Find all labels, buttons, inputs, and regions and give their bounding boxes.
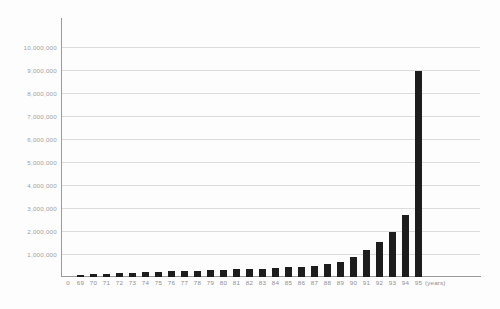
bar-slot bbox=[139, 24, 152, 277]
x-axis-tick-label: 78 bbox=[194, 279, 201, 286]
x-axis-tick-label: 74 bbox=[142, 279, 149, 286]
bar bbox=[233, 269, 239, 277]
y-axis-tick-label: 5,000,000 bbox=[27, 159, 57, 166]
x-axis-tick-label: 94 bbox=[402, 279, 409, 286]
x-axis-tick-label: 93 bbox=[389, 279, 396, 286]
bar-slot bbox=[347, 24, 360, 277]
bar bbox=[389, 232, 395, 277]
bar-slot bbox=[243, 24, 256, 277]
x-axis-tick-label: 88 bbox=[324, 279, 331, 286]
bar-slot bbox=[100, 24, 113, 277]
bar-slot bbox=[321, 24, 334, 277]
x-axis-tick-label: 75 bbox=[155, 279, 162, 286]
y-axis-tick-label: 9,000,000 bbox=[27, 67, 57, 74]
y-axis-tick-label: 2,000,000 bbox=[27, 228, 57, 235]
bar bbox=[415, 71, 421, 277]
x-axis-labels: 0697071727374757677787980818283848586878… bbox=[62, 279, 492, 295]
bar-slot bbox=[217, 24, 230, 277]
bar-slot bbox=[282, 24, 295, 277]
y-axis-labels: 1,000,0002,000,0003,000,0004,000,0005,00… bbox=[0, 0, 57, 309]
x-axis-tick-label: 80 bbox=[220, 279, 227, 286]
bar bbox=[129, 273, 135, 277]
bar bbox=[207, 270, 213, 277]
bar bbox=[103, 274, 109, 277]
bar bbox=[116, 273, 122, 277]
x-axis-tick-label: 83 bbox=[259, 279, 266, 286]
x-axis-tick-label: 72 bbox=[116, 279, 123, 286]
bar bbox=[272, 268, 278, 277]
bar bbox=[402, 215, 408, 277]
bar bbox=[194, 271, 200, 277]
x-axis-tick-label: 92 bbox=[376, 279, 383, 286]
bar bbox=[168, 271, 174, 277]
x-axis-tick-label: 84 bbox=[272, 279, 279, 286]
bar-slot bbox=[295, 24, 308, 277]
y-axis-tick-label: 1,000,000 bbox=[27, 251, 57, 258]
bar-slot bbox=[191, 24, 204, 277]
x-axis-tick-label: 71 bbox=[103, 279, 110, 286]
bar-chart: 1,000,0002,000,0003,000,0004,000,0005,00… bbox=[0, 0, 500, 309]
y-axis-tick-label: 4,000,000 bbox=[27, 182, 57, 189]
bar bbox=[181, 271, 187, 277]
bar-slot bbox=[256, 24, 269, 277]
x-axis-tick-label: 90 bbox=[350, 279, 357, 286]
bar-series bbox=[62, 24, 482, 277]
y-axis-tick-label: 3,000,000 bbox=[27, 205, 57, 212]
x-axis-tick-label: 89 bbox=[337, 279, 344, 286]
bar-slot bbox=[399, 24, 412, 277]
bar-slot bbox=[165, 24, 178, 277]
x-axis-tick-label: 87 bbox=[311, 279, 318, 286]
bar bbox=[285, 267, 291, 277]
x-axis-tick-label: 73 bbox=[129, 279, 136, 286]
x-axis-tick-label: 86 bbox=[298, 279, 305, 286]
bar-slot bbox=[334, 24, 347, 277]
bar-slot bbox=[74, 24, 87, 277]
bar bbox=[77, 275, 83, 277]
bar-slot bbox=[308, 24, 321, 277]
bar-slot bbox=[230, 24, 243, 277]
x-axis-tick-label: 85 bbox=[285, 279, 292, 286]
bar-slot bbox=[373, 24, 386, 277]
x-axis-origin-label: 0 bbox=[66, 279, 70, 286]
x-axis-tick-label: 91 bbox=[363, 279, 370, 286]
bar bbox=[363, 250, 369, 277]
x-axis-units-label: (years) bbox=[425, 279, 446, 286]
bar-slot bbox=[87, 24, 100, 277]
bar bbox=[350, 257, 356, 277]
bar-slot bbox=[386, 24, 399, 277]
y-axis-tick-label: 8,000,000 bbox=[27, 90, 57, 97]
bar-slot bbox=[412, 24, 425, 277]
x-axis-tick-label: 82 bbox=[246, 279, 253, 286]
bar-slot bbox=[152, 24, 165, 277]
bar bbox=[155, 272, 161, 277]
bar bbox=[259, 269, 265, 277]
x-axis-tick-label: 95 bbox=[415, 279, 422, 286]
bar bbox=[337, 262, 343, 277]
x-axis-tick-label: 69 bbox=[77, 279, 84, 286]
x-axis-tick-label: 76 bbox=[168, 279, 175, 286]
bar bbox=[246, 269, 252, 277]
bar bbox=[90, 274, 96, 277]
bar bbox=[324, 264, 330, 277]
bar bbox=[376, 242, 382, 277]
bar-slot bbox=[360, 24, 373, 277]
y-axis-tick-label: 10,000,000 bbox=[24, 44, 57, 51]
bar bbox=[311, 266, 317, 277]
bar-slot bbox=[126, 24, 139, 277]
y-axis-tick-label: 7,000,000 bbox=[27, 113, 57, 120]
bar-slot bbox=[178, 24, 191, 277]
bar bbox=[298, 267, 304, 277]
x-axis-tick-label: 79 bbox=[207, 279, 214, 286]
bar bbox=[142, 272, 148, 277]
bar bbox=[220, 270, 226, 277]
y-axis-tick-label: 6,000,000 bbox=[27, 136, 57, 143]
x-axis-tick-label: 77 bbox=[181, 279, 188, 286]
x-axis-tick-label: 81 bbox=[233, 279, 240, 286]
x-axis-tick-label: 70 bbox=[90, 279, 97, 286]
bar-slot bbox=[113, 24, 126, 277]
bar-slot bbox=[269, 24, 282, 277]
bar-slot bbox=[204, 24, 217, 277]
